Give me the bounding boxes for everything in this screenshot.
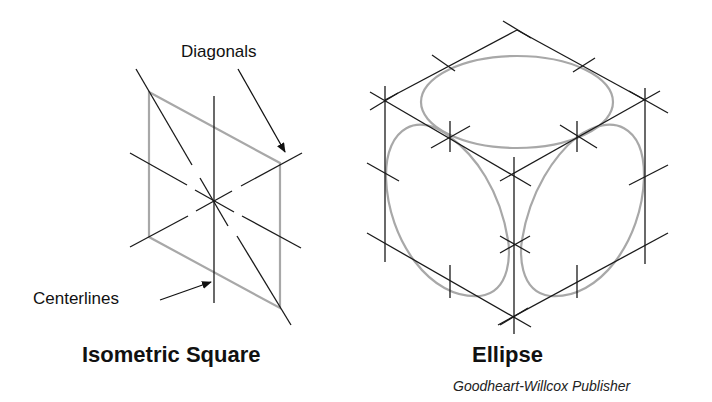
isometric-square-title: Isometric Square [82, 342, 261, 368]
centerlines-leader-arrow [160, 282, 211, 300]
ellipse-title: Ellipse [472, 342, 543, 368]
isometric-square-figure [130, 69, 302, 325]
diagonals-callout-label: Diagonals [181, 42, 257, 62]
publisher-credit: Goodheart-Willcox Publisher [453, 378, 630, 394]
left-face-ellipse [386, 125, 509, 296]
ellipse-cube-figure [367, 21, 668, 334]
tangent-point-ticks [367, 21, 668, 325]
centerlines-callout-label: Centerlines [33, 289, 119, 309]
diagonals-leader-arrow [238, 69, 285, 152]
right-face-ellipse [521, 125, 644, 296]
cube-construction-lines [367, 30, 668, 334]
